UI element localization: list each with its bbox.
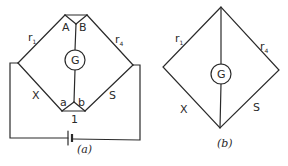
label-x: X xyxy=(32,89,40,102)
label-one: 1 xyxy=(71,113,78,126)
galvanometer-lead-top xyxy=(75,24,76,50)
label-r1: r1 xyxy=(28,31,37,45)
label-galvanometer: G xyxy=(71,54,80,67)
label-galvanometer-b: G xyxy=(217,68,226,81)
battery-icon xyxy=(68,131,72,145)
arm-s xyxy=(85,65,133,111)
galvanometer-lead-bottom xyxy=(74,70,75,102)
label-x-b: X xyxy=(180,103,188,116)
arm-r4 xyxy=(87,15,133,65)
caption-a: (a) xyxy=(77,143,92,156)
galvanometer-lead-bottom-b xyxy=(220,84,221,128)
arm-r1 xyxy=(18,15,65,63)
diagram-b: r1 r4 G X S (b) xyxy=(163,7,279,150)
label-r4-b: r4 xyxy=(260,40,269,54)
label-a-upper: A xyxy=(62,21,70,34)
label-b-upper: B xyxy=(79,21,87,34)
label-b-lower: b xyxy=(78,96,85,109)
label-s-b: S xyxy=(253,101,260,114)
label-r1-b: r1 xyxy=(175,32,184,46)
label-a-lower: a xyxy=(60,96,67,109)
arm-x xyxy=(18,63,62,111)
bridge-circuit-figure: r1 r4 A B G X S a b 1 (a) r1 r4 G X S (b… xyxy=(0,0,288,166)
label-s: S xyxy=(109,89,116,102)
diagram-a: r1 r4 A B G X S a b 1 (a) xyxy=(10,15,140,156)
label-r4: r4 xyxy=(115,33,124,47)
caption-b: (b) xyxy=(217,137,233,150)
